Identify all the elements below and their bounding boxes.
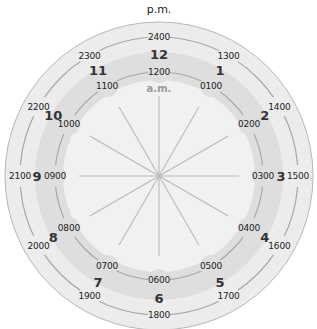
am-time-label: 1100 xyxy=(96,81,118,90)
hour-number: 8 xyxy=(49,231,58,244)
pm-time-label: 2100 xyxy=(9,172,31,181)
pm-time-label: 2300 xyxy=(78,51,100,60)
pm-time-label: 1400 xyxy=(268,102,290,111)
am-time-label: 0600 xyxy=(148,276,170,285)
pm-time-label: 1600 xyxy=(268,241,290,250)
pm-time-label: 1500 xyxy=(287,172,309,181)
am-time-label: 0800 xyxy=(58,224,80,233)
am-time-label: 0900 xyxy=(44,172,66,181)
pm-time-label: 2000 xyxy=(28,241,50,250)
hour-number: 7 xyxy=(93,275,102,288)
am-time-label: 1000 xyxy=(58,120,80,129)
am-time-label: 0500 xyxy=(200,262,222,271)
am-label: a.m. xyxy=(147,84,172,94)
pm-time-label: 1700 xyxy=(217,292,239,301)
am-time-label: 1200 xyxy=(148,68,170,77)
hour-number: 3 xyxy=(276,170,285,183)
hour-number: 12 xyxy=(150,48,168,61)
hour-number: 5 xyxy=(215,275,224,288)
pm-time-label: 1800 xyxy=(148,311,170,320)
am-time-label: 0700 xyxy=(96,262,118,271)
am-time-label: 0100 xyxy=(200,81,222,90)
hour-number: 4 xyxy=(260,231,269,244)
hour-number: 11 xyxy=(89,64,107,77)
hour-number: 2 xyxy=(260,109,269,122)
am-time-label: 0400 xyxy=(238,224,260,233)
hour-number: 1 xyxy=(215,64,224,77)
pm-time-label: 1300 xyxy=(217,51,239,60)
hour-number: 6 xyxy=(154,292,163,305)
am-time-label: 0200 xyxy=(238,120,260,129)
pm-time-label: 2400 xyxy=(148,33,170,42)
pm-time-label: 1900 xyxy=(78,292,100,301)
am-time-label: 0300 xyxy=(252,172,274,181)
hour-number: 9 xyxy=(32,170,41,183)
